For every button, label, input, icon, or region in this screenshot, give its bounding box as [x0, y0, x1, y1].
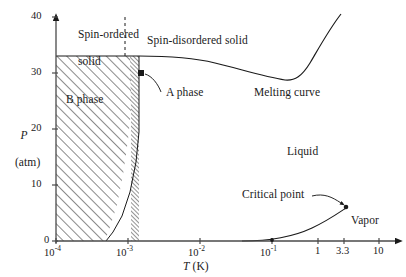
x-axis-title-symbol: T	[183, 260, 190, 272]
y-tick-label-40: 40	[31, 10, 42, 22]
x-tick-exponent: -4	[55, 244, 61, 253]
y-tick-label-30: 30	[31, 66, 42, 78]
region-label-spin-disordered-solid: Spin-disordered solid	[147, 34, 248, 48]
curve-liquid-vapor	[242, 208, 346, 241]
x-tick-label-1e-1: 10-1	[260, 245, 277, 259]
marker-critical-point	[344, 205, 349, 210]
y-axis-title: P (atm)	[3, 115, 33, 183]
region-label-vapor: Vapor	[351, 214, 379, 228]
x-tick-mantissa: 10	[188, 247, 199, 258]
region-b-phase-fill	[56, 56, 131, 241]
annotation-label-melting-curve: Melting curve	[254, 86, 320, 100]
y-axis-title-units: (atm)	[15, 156, 40, 168]
x-tick-label-3-3: 3.3	[336, 245, 349, 257]
x-tick-exponent: -3	[127, 244, 133, 253]
leader-critical-point	[312, 195, 341, 203]
x-axis-title: T (K)	[183, 260, 209, 274]
x-tick-mantissa: 10	[44, 247, 55, 258]
region-label-line1: Spin-ordered	[78, 28, 139, 40]
y-axis-title-symbol: P	[20, 129, 27, 141]
phase-diagram-figure: 40 30 20 10 0 P (atm) 10-4 10-3 10-2 10-…	[0, 0, 406, 277]
x-tick-label-1e-3: 10-3	[116, 245, 133, 259]
x-tick-label-1e-2: 10-2	[188, 245, 205, 259]
region-label-a-phase: A phase	[166, 86, 203, 100]
x-tick-mantissa: 10	[116, 247, 127, 258]
x-tick-exponent: -1	[271, 244, 277, 253]
tick-dot-1e-1	[270, 238, 274, 242]
x-tick-exponent: -2	[199, 244, 205, 253]
x-tick-label-10: 10	[373, 245, 384, 257]
x-tick-label-1: 1	[315, 245, 320, 257]
region-label-b-phase: B phase	[66, 93, 103, 107]
region-label-spin-ordered-solid: Spin-ordered solid	[66, 14, 139, 82]
leader-a-phase	[145, 74, 161, 92]
x-tick-mantissa: 10	[260, 247, 271, 258]
annotation-label-critical-point: Critical point	[242, 188, 304, 202]
x-tick-label-1e-4: 10-4	[44, 245, 61, 259]
x-axis-title-units: (K)	[192, 260, 208, 272]
region-label-liquid: Liquid	[287, 145, 318, 159]
region-label-line2: solid	[78, 55, 101, 67]
